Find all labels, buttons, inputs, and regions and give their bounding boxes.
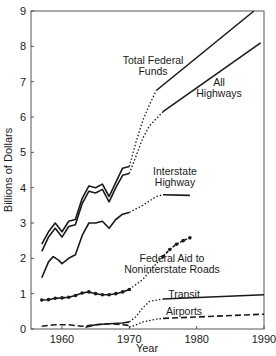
transition-line (129, 91, 156, 167)
label-airports: Airports (166, 305, 202, 317)
x-axis-title: Year (136, 342, 159, 354)
y-tick-label: 1 (20, 288, 26, 300)
historical-line (42, 167, 130, 245)
data-marker (128, 288, 132, 292)
label-all-highways: AllHighways (196, 76, 242, 99)
data-marker (74, 294, 78, 298)
transition-line (129, 299, 163, 322)
data-marker (67, 295, 71, 299)
data-marker (114, 292, 118, 296)
data-marker (47, 298, 51, 302)
line-chart: 0123456789 1960197019801990 Billions of … (0, 0, 276, 356)
data-marker (181, 239, 185, 243)
label-federal-aid-to-noninterstate-roads: Federal Aid toNoninterstate Roads (124, 252, 220, 275)
transition-line (129, 195, 163, 213)
data-marker (101, 293, 105, 297)
data-marker (94, 292, 98, 296)
y-tick-label: 3 (20, 217, 26, 229)
historical-line (42, 212, 130, 277)
projection-line (156, 11, 254, 91)
y-tick-label: 6 (20, 111, 26, 123)
label-interstate-highway: InterstateHighway (153, 165, 197, 188)
data-marker (121, 290, 125, 294)
data-marker (60, 296, 64, 300)
transition-line (129, 318, 163, 327)
label-transit: Transit (168, 288, 200, 300)
y-tick-label: 0 (20, 323, 26, 335)
y-tick-label: 5 (20, 146, 26, 158)
historical-line (42, 174, 130, 252)
projection-line (163, 195, 190, 196)
y-tick-label: 7 (20, 76, 26, 88)
data-marker (107, 293, 111, 297)
y-tick-label: 2 (20, 252, 26, 264)
data-marker (40, 298, 44, 302)
y-tick-label: 9 (20, 5, 26, 17)
y-axis: 0123456789 (20, 5, 34, 335)
y-tick-label: 4 (20, 182, 26, 194)
x-tick-label: 1990 (252, 333, 276, 345)
data-marker (53, 296, 57, 300)
data-marker (175, 242, 179, 246)
data-marker (80, 291, 84, 295)
data-marker (87, 290, 91, 294)
x-tick-label: 1960 (50, 333, 74, 345)
series-airports (42, 314, 264, 327)
historical-line (42, 324, 130, 327)
x-tick-label: 1980 (184, 333, 208, 345)
series-labels: Total FederalFundsAllHighwaysInterstateH… (123, 54, 242, 317)
label-total-federal-funds: Total FederalFunds (123, 54, 184, 77)
y-tick-label: 8 (20, 40, 26, 52)
y-axis-title: Billions of Dollars (2, 127, 14, 212)
data-marker (168, 248, 172, 252)
data-marker (188, 236, 192, 240)
